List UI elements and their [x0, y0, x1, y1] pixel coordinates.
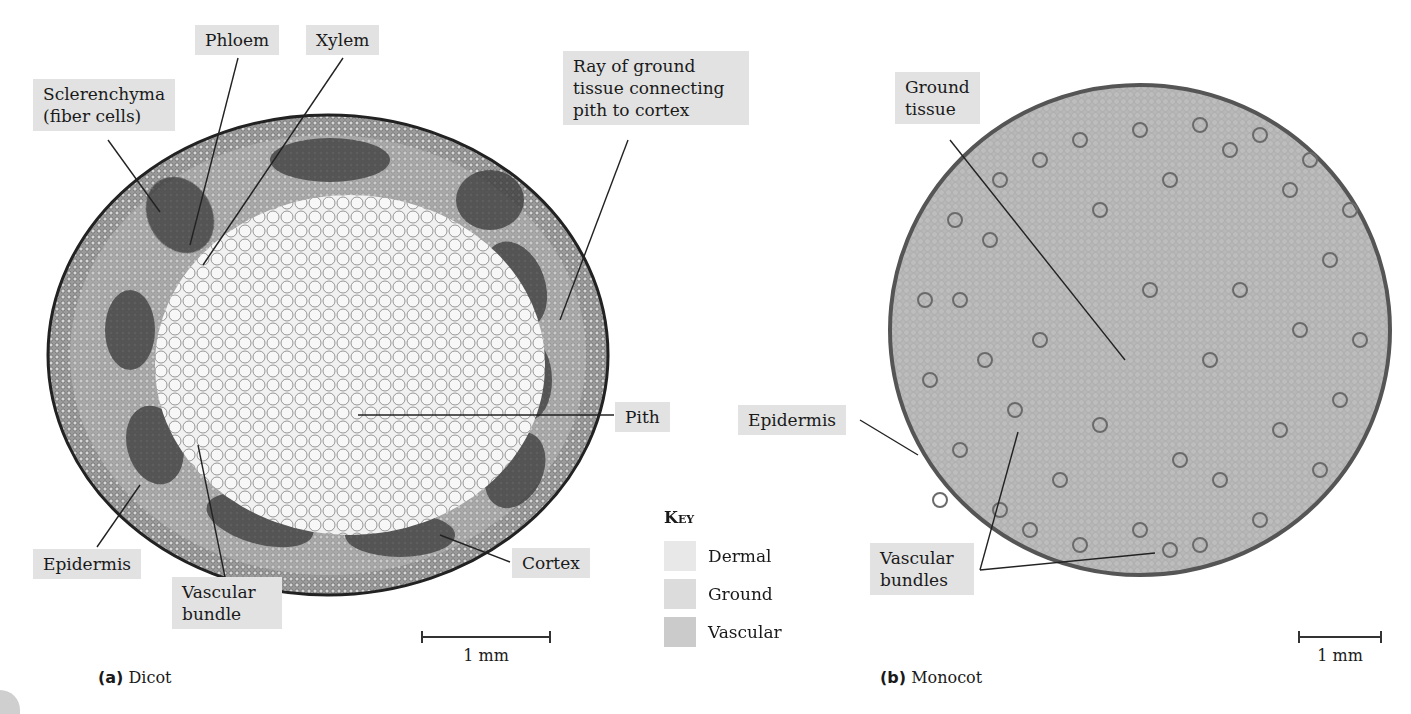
label-phloem: Phloem [195, 25, 279, 55]
key-title: Key [664, 508, 782, 527]
scale-bar-monocot: 1 mm [1298, 636, 1382, 665]
caption-dicot: (a) Dicot [98, 668, 171, 687]
swatch-vascular [664, 617, 696, 647]
swatch-ground [664, 579, 696, 609]
label-epidermis-dicot: Epidermis [33, 549, 141, 579]
label-ray-of-ground-tissue: Ray of ground tissue connecting pith to … [563, 51, 749, 125]
label-ground-tissue: Ground tissue [895, 72, 980, 124]
label-pith: Pith [615, 402, 670, 432]
key-item-dermal: Dermal [664, 537, 782, 575]
caption-monocot: (b) Monocot [880, 668, 982, 687]
dicot-stem-section [48, 115, 608, 595]
scale-bar-dicot: 1 mm [421, 636, 551, 665]
key-item-vascular: Vascular [664, 613, 782, 651]
key-item-ground: Ground [664, 575, 782, 613]
label-vascular-bundle: Vascular bundle [172, 577, 282, 629]
label-epidermis-monocot: Epidermis [738, 405, 846, 435]
label-vascular-bundles: Vascular bundles [870, 543, 974, 595]
swatch-dermal [664, 541, 696, 571]
label-xylem: Xylem [306, 25, 379, 55]
label-cortex: Cortex [512, 548, 590, 578]
tissue-key: Key Dermal Ground Vascular [664, 508, 782, 651]
label-sclerenchyma: Sclerenchyma (fiber cells) [33, 79, 175, 131]
